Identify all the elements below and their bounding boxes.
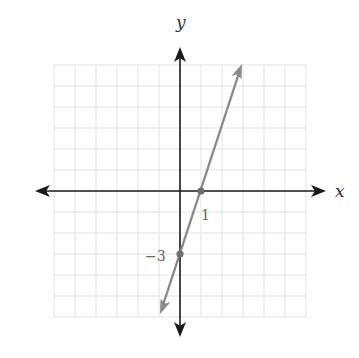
x-axis-label: x bbox=[335, 181, 345, 201]
x-intercept-label: 1 bbox=[201, 207, 210, 223]
y-axis bbox=[174, 47, 186, 337]
y-intercept-label: −3 bbox=[145, 248, 166, 264]
x-intercept-point bbox=[197, 187, 204, 194]
coordinate-plane: y x 1 −3 bbox=[0, 0, 359, 358]
y-intercept-point bbox=[176, 250, 183, 257]
y-axis-label: y bbox=[175, 12, 186, 32]
